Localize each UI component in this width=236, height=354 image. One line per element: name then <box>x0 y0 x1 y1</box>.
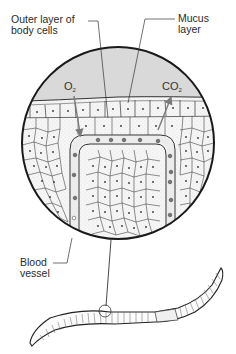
oxygen-label: O2 <box>64 80 76 93</box>
mucus-label-line2: layer <box>178 24 209 35</box>
oxygen-symbol: O <box>64 80 73 92</box>
earthworm <box>30 268 223 346</box>
diagram-canvas: Outer layer of body cells Mucus layer Bl… <box>0 0 236 354</box>
oxygen-subscript: 2 <box>73 87 76 93</box>
magnification-pointer <box>106 240 111 306</box>
outer-layer-label-line2: body cells <box>11 25 75 36</box>
blood-vessel-leader <box>53 238 72 263</box>
blood-vessel-label-line2: vessel <box>20 268 50 279</box>
blood-vessel-label: Blood vessel <box>20 257 50 279</box>
co2-subscript: 2 <box>179 87 182 93</box>
mucus-label: Mucus layer <box>178 13 209 35</box>
outer-layer-label: Outer layer of body cells <box>11 14 75 36</box>
co2-symbol: CO <box>162 80 179 92</box>
magnified-section <box>0 40 236 250</box>
co2-label: CO2 <box>162 80 182 93</box>
